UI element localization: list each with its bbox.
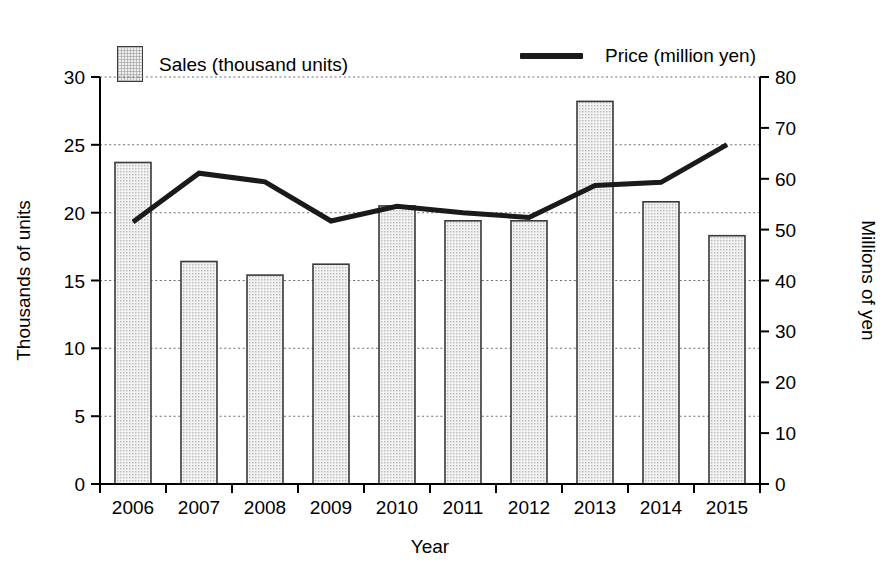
x-tick-2014: 2014 <box>640 497 683 518</box>
x-tick-2006: 2006 <box>112 497 154 518</box>
y-right-axis-title: Millions of yen <box>858 220 879 340</box>
axis-tick-labels: 0510152025300102030405060708020062007200… <box>64 67 796 518</box>
x-tick-2009: 2009 <box>310 497 352 518</box>
x-tick-2012: 2012 <box>508 497 550 518</box>
x-tick-2015: 2015 <box>706 497 748 518</box>
x-axis-title: Year <box>411 536 450 557</box>
chart-svg: 0510152025300102030405060708020062007200… <box>0 0 890 577</box>
y-left-tick-15: 15 <box>64 271 85 292</box>
y-right-tick-60: 60 <box>775 169 796 190</box>
y-left-tick-10: 10 <box>64 338 85 359</box>
price-line <box>133 145 727 222</box>
bar-2011 <box>445 221 481 484</box>
bar-2014 <box>643 202 679 484</box>
y-right-tick-30: 30 <box>775 321 796 342</box>
bar-2012 <box>511 221 547 484</box>
bar-2007 <box>181 262 217 485</box>
x-tick-2013: 2013 <box>574 497 616 518</box>
y-right-tick-10: 10 <box>775 423 796 444</box>
y-left-tick-0: 0 <box>74 474 85 495</box>
x-tick-2008: 2008 <box>244 497 286 518</box>
bar-2013 <box>577 101 613 484</box>
y-right-tick-40: 40 <box>775 271 796 292</box>
y-left-tick-25: 25 <box>64 135 85 156</box>
x-tick-2011: 2011 <box>443 497 484 518</box>
y-left-tick-30: 30 <box>64 67 85 88</box>
bar-series-sales <box>115 101 745 484</box>
plot-area-wrapper: 0510152025300102030405060708020062007200… <box>0 0 890 577</box>
chart-figure: Sales (thousand units) Price (million ye… <box>0 0 890 577</box>
y-left-axis-title: Thousands of units <box>13 200 34 361</box>
y-right-tick-70: 70 <box>775 118 796 139</box>
y-right-tick-0: 0 <box>775 474 786 495</box>
bar-2008 <box>247 275 283 484</box>
y-right-tick-50: 50 <box>775 220 796 241</box>
bar-2009 <box>313 264 349 484</box>
y-right-tick-20: 20 <box>775 372 796 393</box>
line-series-price <box>133 145 727 222</box>
y-left-tick-20: 20 <box>64 203 85 224</box>
x-tick-2007: 2007 <box>178 497 220 518</box>
y-right-tick-80: 80 <box>775 67 796 88</box>
bar-2010 <box>379 206 415 484</box>
y-left-tick-5: 5 <box>74 406 85 427</box>
bar-2015 <box>709 236 745 484</box>
x-tick-2010: 2010 <box>376 497 418 518</box>
